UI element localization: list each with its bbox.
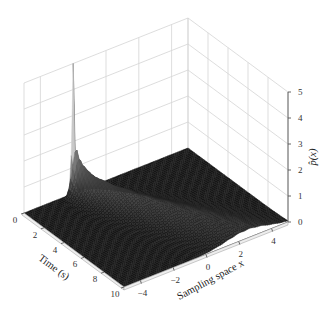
z-tick-label: 0 <box>298 217 303 227</box>
time-axis-label: Time (s) <box>36 252 72 283</box>
time-tick-label: 10 <box>111 289 121 299</box>
z-tick-label: 5 <box>298 87 303 97</box>
x-tick-label: −4 <box>138 288 148 298</box>
time-tick-label: 4 <box>53 245 58 255</box>
time-tick-label: 8 <box>93 274 98 284</box>
time-tick-label: 2 <box>33 230 38 240</box>
x-tick-label: 4 <box>271 236 276 246</box>
z-tick-label: 3 <box>298 139 303 149</box>
z-axis-label: p̂(x) <box>307 148 319 166</box>
z-tick-label: 4 <box>298 113 303 123</box>
surface-plot-figure: 0246810−4−2024012345 Time (s) Sampling s… <box>0 0 334 313</box>
time-tick-label: 0 <box>13 215 18 225</box>
x-tick-label: 0 <box>206 262 211 272</box>
z-tick-label: 1 <box>298 191 303 201</box>
z-tick-label: 2 <box>298 165 303 175</box>
time-tick-label: 6 <box>73 259 78 269</box>
surface-plot: 0246810−4−2024012345 Time (s) Sampling s… <box>0 0 334 313</box>
x-tick-label: −2 <box>170 275 180 285</box>
